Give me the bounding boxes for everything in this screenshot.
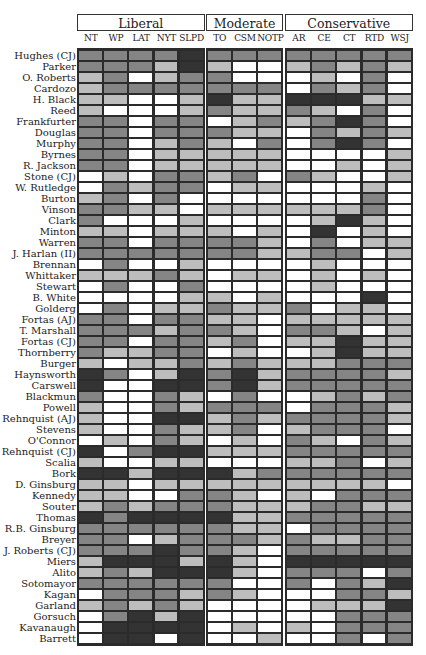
column-label: CT xyxy=(336,33,362,43)
heatmap-cell xyxy=(104,447,127,456)
panel-conservative xyxy=(285,48,413,645)
heatmap-cell xyxy=(363,381,386,390)
heatmap-cell xyxy=(180,249,203,258)
heatmap-cell xyxy=(129,161,152,170)
heatmap-cell xyxy=(79,513,102,522)
heatmap-cell xyxy=(129,150,152,159)
heatmap-cell xyxy=(388,304,411,313)
heatmap-cell xyxy=(155,436,178,445)
heatmap-cell xyxy=(155,106,178,115)
heatmap-cell xyxy=(287,513,310,522)
heatmap-cell xyxy=(180,227,203,236)
heatmap-cell xyxy=(104,612,127,621)
heatmap-cell xyxy=(129,326,152,335)
panel-moderate xyxy=(206,48,283,645)
row-label: Sotomayor xyxy=(21,578,76,589)
heatmap-cell xyxy=(129,337,152,346)
column-label: NYT xyxy=(153,33,179,43)
heatmap-cell xyxy=(337,128,360,137)
heatmap-cell xyxy=(388,62,411,71)
heatmap-cell xyxy=(388,414,411,423)
heatmap-cell xyxy=(258,51,281,60)
heatmap-cell xyxy=(155,271,178,280)
heatmap-cell xyxy=(312,106,335,115)
row-label: Reed xyxy=(50,105,76,116)
heatmap-cell xyxy=(208,337,231,346)
heatmap-cell xyxy=(104,205,127,214)
heatmap-cell xyxy=(312,150,335,159)
heatmap-cell xyxy=(258,73,281,82)
heatmap-cell xyxy=(155,524,178,533)
heatmap-cell xyxy=(208,370,231,379)
heatmap-cell xyxy=(129,304,152,313)
heatmap-cell xyxy=(337,370,360,379)
heatmap-cell xyxy=(363,326,386,335)
heatmap-cell xyxy=(180,117,203,126)
heatmap-cell xyxy=(208,216,231,225)
row-label: B. White xyxy=(32,292,76,303)
heatmap-cell xyxy=(287,557,310,566)
heatmap-cell xyxy=(363,634,386,643)
heatmap-cell xyxy=(312,491,335,500)
heatmap-cell xyxy=(155,194,178,203)
heatmap-cell xyxy=(363,139,386,148)
heatmap-cell xyxy=(337,315,360,324)
heatmap-cell xyxy=(180,535,203,544)
heatmap-cell xyxy=(337,150,360,159)
heatmap-cell xyxy=(287,293,310,302)
heatmap-cell xyxy=(337,271,360,280)
heatmap-cell xyxy=(287,62,310,71)
row-label: T. Marshall xyxy=(20,325,76,336)
heatmap-cell xyxy=(388,260,411,269)
heatmap-cell xyxy=(287,172,310,181)
heatmap-cell xyxy=(104,403,127,412)
row-label: Powell xyxy=(43,402,76,413)
heatmap-cell xyxy=(129,469,152,478)
heatmap-cell xyxy=(79,403,102,412)
heatmap-cell xyxy=(208,579,231,588)
heatmap-cell xyxy=(258,513,281,522)
heatmap-cell xyxy=(155,139,178,148)
heatmap-cell xyxy=(388,546,411,555)
heatmap-cell xyxy=(363,590,386,599)
heatmap-cell xyxy=(312,172,335,181)
heatmap-cell xyxy=(129,359,152,368)
heatmap-cell xyxy=(129,293,152,302)
heatmap-cell xyxy=(233,480,256,489)
heatmap-cell xyxy=(388,282,411,291)
heatmap-cell xyxy=(79,359,102,368)
heatmap-cell xyxy=(233,117,256,126)
heatmap-cell xyxy=(312,348,335,357)
heatmap-cell xyxy=(155,348,178,357)
heatmap-cell xyxy=(287,128,310,137)
heatmap-cell xyxy=(208,84,231,93)
heatmap-cell xyxy=(104,62,127,71)
heatmap-cell xyxy=(129,183,152,192)
heatmap-cell xyxy=(337,502,360,511)
heatmap-cell xyxy=(180,51,203,60)
heatmap-cell xyxy=(337,194,360,203)
heatmap-cell xyxy=(287,161,310,170)
heatmap-cell xyxy=(104,293,127,302)
heatmap-cell xyxy=(180,106,203,115)
heatmap-cell xyxy=(208,447,231,456)
heatmap-cell xyxy=(208,95,231,104)
heatmap-cell xyxy=(388,458,411,467)
heatmap-cell xyxy=(129,436,152,445)
heatmap-cell xyxy=(79,546,102,555)
heatmap-cell xyxy=(155,568,178,577)
heatmap-cell xyxy=(258,260,281,269)
row-label: Fortas (AJ) xyxy=(21,314,76,325)
heatmap-cell xyxy=(287,348,310,357)
heatmap-cell xyxy=(155,172,178,181)
heatmap-cell xyxy=(155,282,178,291)
heatmap-cell xyxy=(233,447,256,456)
row-label: W. Rutledge xyxy=(15,182,76,193)
row-label: Rehnquist (AJ) xyxy=(2,413,76,424)
heatmap-cell xyxy=(129,601,152,610)
heatmap-cell xyxy=(287,117,310,126)
heatmap-cell xyxy=(337,392,360,401)
heatmap-cell xyxy=(388,381,411,390)
heatmap-cell xyxy=(312,128,335,137)
heatmap-cell xyxy=(287,359,310,368)
